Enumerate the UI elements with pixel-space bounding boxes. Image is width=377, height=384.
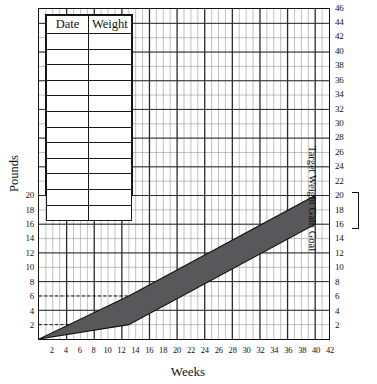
y-tick-left-16: 16 — [14, 220, 34, 229]
y-tick-right-2: 2 — [335, 321, 357, 330]
y-tick-right-4: 4 — [335, 307, 357, 316]
cell-date[interactable] — [46, 80, 88, 96]
cell-date[interactable] — [46, 96, 88, 112]
weight-log-table[interactable]: Date Weight — [45, 14, 133, 196]
cell-weight[interactable] — [89, 34, 131, 50]
y-tick-right-32: 32 — [335, 105, 357, 114]
cell-weight[interactable] — [89, 174, 131, 190]
y-tick-left-2: 2 — [14, 321, 34, 330]
cell-weight[interactable] — [89, 80, 131, 96]
cell-weight[interactable] — [89, 189, 131, 205]
cell-date[interactable] — [46, 65, 88, 81]
y-tick-left-14: 14 — [14, 234, 34, 243]
table-row[interactable] — [46, 34, 131, 50]
cell-weight[interactable] — [89, 65, 131, 81]
y-tick-right-20: 20 — [335, 191, 357, 200]
cell-weight[interactable] — [89, 158, 131, 174]
cell-weight[interactable] — [89, 49, 131, 65]
cell-date[interactable] — [46, 205, 88, 221]
y-tick-right-24: 24 — [335, 162, 357, 171]
cell-date[interactable] — [46, 174, 88, 190]
y-tick-right-10: 10 — [335, 263, 357, 272]
y-tick-right-44: 44 — [335, 18, 357, 27]
y-tick-right-34: 34 — [335, 90, 357, 99]
y-tick-left-8: 8 — [14, 278, 34, 287]
y-tick-left-4: 4 — [14, 307, 34, 316]
cell-weight[interactable] — [89, 205, 131, 221]
y-tick-left-10: 10 — [14, 263, 34, 272]
y-tick-right-26: 26 — [335, 148, 357, 157]
right-axis-title: Target Weight Gain Goal — [307, 146, 318, 251]
cell-date[interactable] — [46, 143, 88, 159]
cell-date[interactable] — [46, 158, 88, 174]
y-tick-right-8: 8 — [335, 278, 357, 287]
y-tick-right-40: 40 — [335, 47, 357, 56]
y-tick-left-6: 6 — [14, 292, 34, 301]
y-tick-right-46: 46 — [335, 4, 357, 13]
y-tick-right-14: 14 — [335, 234, 357, 243]
y-tick-left-20: 20 — [14, 191, 34, 200]
table-row[interactable] — [46, 96, 131, 112]
y-tick-right-18: 18 — [335, 206, 357, 215]
table-header-row: Date Weight — [46, 16, 131, 34]
y-tick-right-12: 12 — [335, 249, 357, 258]
y-tick-left-18: 18 — [14, 206, 34, 215]
cell-weight[interactable] — [89, 111, 131, 127]
y-tick-right-36: 36 — [335, 76, 357, 85]
cell-date[interactable] — [46, 189, 88, 205]
table-body — [46, 34, 131, 221]
table-row[interactable] — [46, 143, 131, 159]
y-tick-left-12: 12 — [14, 249, 34, 258]
cell-weight[interactable] — [89, 96, 131, 112]
cell-date[interactable] — [46, 127, 88, 143]
cell-date[interactable] — [46, 49, 88, 65]
table-row[interactable] — [46, 127, 131, 143]
table-row[interactable] — [46, 49, 131, 65]
table-row[interactable] — [46, 65, 131, 81]
cell-date[interactable] — [46, 34, 88, 50]
table-row[interactable] — [46, 189, 131, 205]
y-tick-right-28: 28 — [335, 133, 357, 142]
y-tick-right-38: 38 — [335, 61, 357, 70]
y-tick-right-6: 6 — [335, 292, 357, 301]
column-header-weight: Weight — [89, 16, 131, 34]
table-row[interactable] — [46, 205, 131, 221]
cell-date[interactable] — [46, 111, 88, 127]
x-axis-title: Weeks — [148, 364, 228, 380]
table-row[interactable] — [46, 111, 131, 127]
table-row[interactable] — [46, 80, 131, 96]
y-tick-right-42: 42 — [335, 32, 357, 41]
weight-gain-chart: Date Weight Pounds Weeks Target Weight G… — [0, 0, 377, 384]
cell-weight[interactable] — [89, 127, 131, 143]
x-tick-42: 42 — [321, 346, 339, 355]
cell-weight[interactable] — [89, 143, 131, 159]
y-tick-right-30: 30 — [335, 119, 357, 128]
table-row[interactable] — [46, 174, 131, 190]
table-row[interactable] — [46, 158, 131, 174]
weight-log-grid: Date Weight — [46, 15, 132, 221]
y-tick-right-16: 16 — [335, 220, 357, 229]
column-header-date: Date — [46, 16, 88, 34]
y-tick-right-22: 22 — [335, 177, 357, 186]
